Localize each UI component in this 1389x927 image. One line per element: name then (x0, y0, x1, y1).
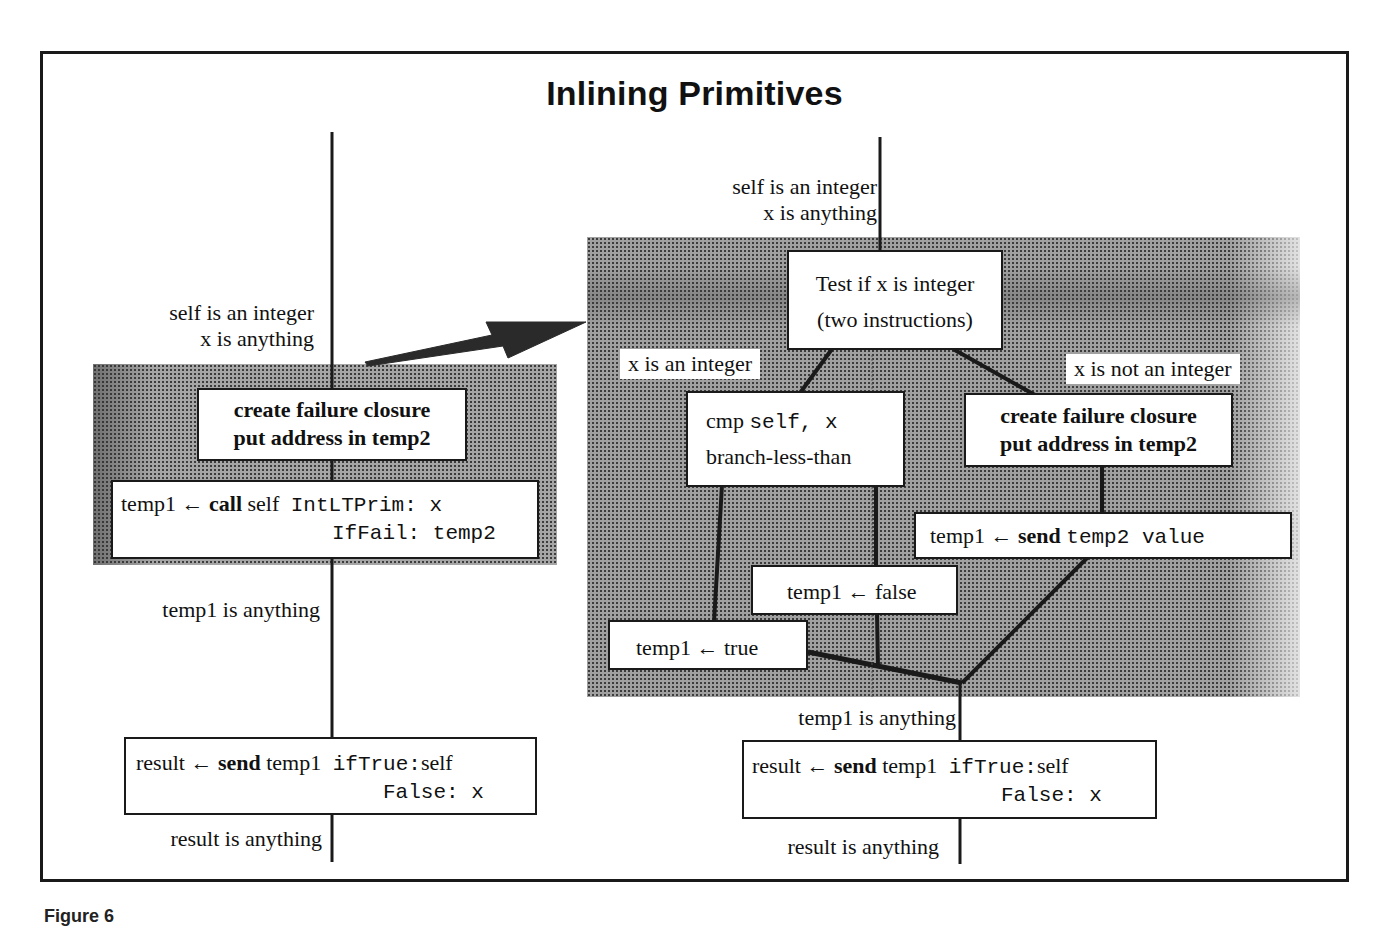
test-integer-box: Test if x is integer (two instructions) (787, 250, 1003, 350)
precondition-x: x is anything (732, 200, 877, 226)
true-to-merge-line (808, 652, 962, 683)
assign-arrow-icon: ← (806, 753, 828, 778)
result-lhs: result (136, 750, 185, 775)
test-line-2: (two instructions) (789, 306, 1001, 334)
left-result-box: result ← send temp1 ifTrue:self False: x (124, 737, 537, 815)
left-after-call: temp1 is anything (162, 597, 320, 623)
cmp-to-true-line (714, 485, 722, 622)
send-to-merge-line (962, 557, 1088, 683)
result-receiver: temp1 (882, 753, 937, 778)
send-keyword: send (218, 750, 261, 775)
assign-arrow-icon: ← (991, 523, 1013, 548)
result-lhs: result (752, 753, 801, 778)
assign-arrow-icon: ← (182, 491, 204, 516)
send-keyword: send (834, 753, 877, 778)
right-precondition: self is an integer x is anything (732, 174, 877, 226)
closure-line-2: put address in temp2 (199, 424, 465, 452)
assign-arrow-icon: ← (190, 750, 212, 775)
left-precondition: self is an integer x is anything (169, 300, 314, 352)
result-selector-1: ifTrue: (333, 753, 421, 776)
true-box: temp1 ← true (608, 620, 808, 670)
call-selector-2: IfFail: temp2 (121, 520, 537, 548)
precondition-self: self is an integer (169, 300, 314, 326)
closure-line-1: create failure closure (199, 396, 465, 424)
precondition-x: x is anything (169, 326, 314, 352)
false-box: temp1 ← false (751, 565, 958, 615)
branch-not-int-label: x is not an integer (1066, 354, 1240, 384)
call-keyword: call (209, 491, 242, 516)
result-arg-1: self (421, 750, 453, 775)
branch-int-label: x is an integer (620, 349, 760, 379)
right-closure-box: create failure closure put address in te… (964, 393, 1233, 467)
right-postcondition: result is anything (787, 834, 939, 860)
branch-not-int-line (953, 349, 1035, 395)
call-receiver: self (248, 491, 280, 516)
cmp-args: self, x (749, 411, 837, 434)
result-arg-1: self (1037, 753, 1069, 778)
call-lhs: temp1 (121, 491, 176, 516)
cmp-op: cmp (706, 408, 744, 433)
closure-line-2: put address in temp2 (966, 430, 1231, 458)
left-postcondition: result is anything (170, 826, 322, 852)
false-down-line (877, 613, 878, 667)
send-lhs: temp1 (930, 523, 985, 548)
send-keyword: send (1018, 523, 1061, 548)
left-call-box: temp1 ← call self IntLTPrim: x IfFail: t… (111, 480, 539, 559)
cmp-box: cmp self, x branch-less-than (686, 391, 905, 487)
result-selector-2: False: x (136, 779, 535, 807)
cmp-branch: branch-less-than (706, 443, 903, 471)
send-value-box: temp1 ← send temp2 value (914, 512, 1292, 559)
result-receiver: temp1 (266, 750, 321, 775)
left-closure-box: create failure closure put address in te… (197, 388, 467, 461)
call-selector-1: IntLTPrim: x (291, 494, 442, 517)
test-line-1: Test if x is integer (789, 270, 1001, 298)
closure-line-1: create failure closure (966, 402, 1231, 430)
precondition-self: self is an integer (732, 174, 877, 200)
figure-caption: Figure 6 (44, 906, 114, 927)
transform-arrow-icon (365, 322, 586, 366)
result-selector-1: ifTrue: (949, 756, 1037, 779)
result-selector-2: False: x (752, 782, 1155, 810)
send-code: temp2 value (1066, 526, 1205, 549)
right-after-merge: temp1 is anything (798, 705, 956, 731)
branch-int-line (800, 349, 832, 393)
right-result-box: result ← send temp1 ifTrue:self False: x (742, 740, 1157, 819)
